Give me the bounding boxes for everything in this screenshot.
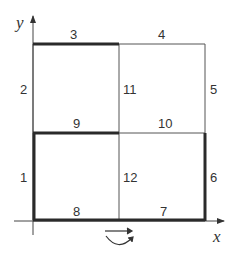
x-axis-label: x [212, 227, 221, 246]
label-2: 2 [20, 82, 27, 97]
label-6: 6 [210, 170, 217, 185]
rotation-arrow-icon [105, 228, 133, 245]
grid-diagram: y x 3 4 2 11 5 9 10 1 12 6 8 7 [0, 0, 238, 259]
label-8: 8 [73, 204, 80, 219]
label-1: 1 [20, 170, 27, 185]
label-7: 7 [160, 204, 167, 219]
label-9: 9 [73, 116, 80, 131]
label-5: 5 [210, 82, 217, 97]
label-4: 4 [158, 27, 165, 42]
label-10: 10 [158, 116, 172, 131]
label-12: 12 [123, 170, 137, 185]
label-3: 3 [70, 27, 77, 42]
y-axis-label: y [14, 13, 24, 32]
label-11: 11 [123, 82, 137, 97]
